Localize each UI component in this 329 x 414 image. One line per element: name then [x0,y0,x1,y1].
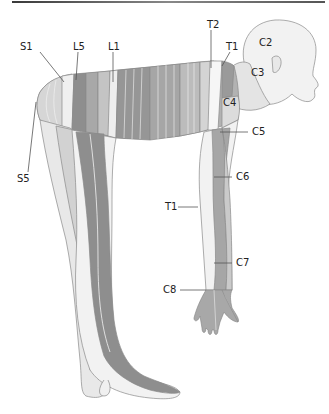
hand [194,290,239,335]
label-c8: C8 [163,285,176,295]
label-c3: C3 [251,68,264,78]
label-s5: S5 [17,174,30,184]
label-l5: L5 [73,42,85,52]
label-t1-top: T1 [226,42,238,52]
dermatome-figure: S1 L5 L1 T2 T1 C2 C3 C4 C5 S5 C6 T1 C7 C… [0,0,329,414]
label-c2: C2 [259,38,272,48]
label-s1: S1 [20,42,33,52]
label-t1-arm: T1 [165,202,177,212]
label-l1: L1 [108,42,120,52]
label-c7: C7 [236,258,249,268]
label-c5: C5 [252,127,265,137]
label-c4: C4 [223,98,236,108]
label-t2: T2 [207,20,219,30]
label-c6: C6 [236,172,249,182]
